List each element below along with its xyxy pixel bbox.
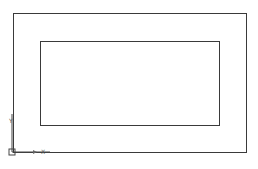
ucs-axis-icon [6, 110, 56, 160]
drawing-canvas[interactable]: Y X [0, 0, 258, 169]
ucs-y-label: Y [9, 118, 13, 124]
inner-rectangle[interactable] [40, 41, 220, 126]
ucs-x-label: X [41, 149, 45, 155]
